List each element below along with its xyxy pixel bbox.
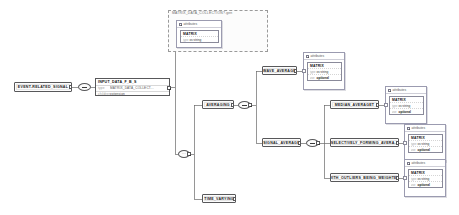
detail-value: extension	[110, 92, 125, 96]
node-label: TIME_VARYING	[204, 196, 234, 200]
attributes-label: attributes	[412, 126, 426, 130]
node-label: WAVE_AVERAGE	[263, 68, 296, 72]
expand-handle-icon[interactable]	[396, 141, 399, 145]
expand-handle-icon[interactable]	[248, 103, 252, 107]
expand-box-icon[interactable]	[407, 127, 410, 130]
connector-sequence-3[interactable]	[306, 139, 319, 147]
diagram-canvas[interactable]: MATRIX_DATA_COLLECTION?.gen attributes M…	[0, 0, 459, 215]
attributes-label: attributes	[184, 22, 198, 26]
card-connector-tab	[302, 69, 306, 73]
attribute-key: use	[392, 110, 399, 114]
attributes-card-header: attributes	[386, 87, 426, 94]
card-connector-tab	[403, 176, 407, 180]
connector-sequence-1[interactable]	[78, 83, 91, 91]
attribute-value: xs:string	[418, 177, 430, 181]
node-time-varying[interactable]: TIME_VARYING	[202, 194, 236, 203]
sequence-icon	[242, 105, 247, 106]
attribute-row: use optional	[390, 108, 423, 114]
expand-handle-icon[interactable]	[294, 69, 297, 73]
attribute-key: use	[310, 76, 317, 80]
attributes-card-header: attributes	[405, 160, 445, 167]
attribute-value: optional	[399, 110, 411, 114]
detail-key: type	[96, 86, 110, 90]
attribute-value: optional	[418, 183, 430, 187]
attribute-row: type xs:string	[181, 36, 218, 42]
attributes-card-header: attributes	[177, 21, 221, 28]
node-wave-average[interactable]: WAVE_AVERAGE	[262, 66, 297, 75]
node-label: SIGNAL_AVERAGE	[263, 140, 300, 144]
attributes-card-selectively-forming[interactable]: attributes MATRIX type xs:string use opt…	[404, 124, 446, 162]
expand-handle-icon[interactable]	[396, 176, 399, 180]
node-median-average[interactable]: MEDIAN_AVERAGET	[330, 100, 379, 109]
attribute-key: type	[411, 142, 418, 146]
node-label: WITH_OUTLIERS_BEING_WEIGHTE...	[330, 175, 399, 179]
attribute-value: optional	[418, 148, 430, 152]
attribute-entry: MATRIX type xs:string	[180, 30, 219, 44]
attribute-entry: MATRIX type xs:string use optional	[408, 169, 443, 189]
attributes-card-with-outliers[interactable]: attributes MATRIX type xs:string use opt…	[404, 159, 446, 197]
node-selectively-forming-average[interactable]: SELECTIVELY_FORMING_AVERA...	[330, 138, 399, 147]
expand-box-icon[interactable]	[306, 55, 309, 58]
node-detail-row: children extension	[96, 91, 169, 97]
card-connector-tab	[384, 103, 388, 107]
expand-handle-icon[interactable]	[316, 141, 320, 145]
connector-choice[interactable]: ···	[178, 150, 190, 158]
attributes-card-group[interactable]: attributes MATRIX type xs:string	[176, 20, 222, 48]
node-with-outliers-being-weighted[interactable]: WITH_OUTLIERS_BEING_WEIGHTE...	[330, 173, 399, 182]
attribute-entry: MATRIX type xs:string use optional	[408, 134, 443, 154]
attribute-value: optional	[317, 76, 329, 80]
attribute-value: xs:string	[418, 142, 430, 146]
group-title: MATRIX_DATA_COLLECTION?.gen	[172, 11, 232, 15]
node-label: AVERAGING	[206, 102, 230, 106]
attribute-value: xs:string	[399, 104, 411, 108]
expand-handle-icon[interactable]	[231, 103, 234, 107]
attribute-value: xs:string	[317, 70, 329, 74]
attribute-key: type	[183, 38, 190, 42]
attributes-label: attributes	[393, 88, 407, 92]
attribute-entry: MATRIX type xs:string use optional	[307, 62, 342, 82]
attributes-label: attributes	[311, 54, 325, 58]
attribute-key: type	[310, 70, 317, 74]
expand-box-icon[interactable]	[407, 162, 410, 165]
expand-handle-icon[interactable]	[187, 152, 191, 156]
attributes-label: attributes	[412, 161, 426, 165]
node-label: MEDIAN_AVERAGET	[335, 102, 375, 106]
attributes-card-median-average[interactable]: attributes MATRIX type xs:string use opt…	[385, 86, 427, 124]
attribute-key: type	[392, 104, 399, 108]
attribute-row: use optional	[409, 146, 442, 152]
attribute-row: use optional	[409, 181, 442, 187]
sequence-icon	[310, 143, 315, 144]
choice-icon: ···	[182, 153, 186, 156]
node-signal-average[interactable]: SIGNAL_AVERAGE	[262, 138, 301, 147]
card-connector-tab	[403, 141, 407, 145]
expand-handle-icon[interactable]	[376, 103, 379, 107]
detail-value: MATRIX_DATA_COLLECT...	[110, 86, 154, 90]
node-event-related-signal[interactable]: EVENT-RELATED_SIGNAL	[14, 82, 72, 92]
attributes-card-header: attributes	[405, 125, 445, 132]
expand-handle-icon[interactable]	[233, 197, 236, 201]
attribute-key: type	[411, 177, 418, 181]
attribute-value: xs:string	[190, 38, 202, 42]
attribute-key: use	[411, 148, 418, 152]
attributes-card-header: attributes	[304, 53, 344, 60]
attribute-row: use optional	[308, 74, 341, 80]
detail-key: children	[96, 92, 110, 96]
node-label: SELECTIVELY_FORMING_AVERA...	[331, 140, 399, 144]
expand-handle-icon[interactable]	[167, 86, 171, 90]
expand-box-icon[interactable]	[179, 23, 182, 26]
expand-handle-icon[interactable]	[298, 141, 301, 145]
attributes-card-wave-average[interactable]: attributes MATRIX type xs:string use opt…	[303, 52, 345, 90]
connector-sequence-2[interactable]	[238, 101, 251, 109]
node-label: EVENT-RELATED_SIGNAL	[18, 85, 68, 89]
attribute-key: use	[411, 183, 418, 187]
expand-handle-icon[interactable]	[69, 85, 72, 89]
attribute-entry: MATRIX type xs:string use optional	[389, 96, 424, 116]
expand-box-icon[interactable]	[388, 89, 391, 92]
sequence-icon	[82, 87, 87, 88]
node-input-data-f-b-s[interactable]: INPUT_DATA_F_B_S type MATRIX_DATA_COLLEC…	[95, 78, 170, 96]
node-averaging[interactable]: AVERAGING	[202, 100, 234, 109]
